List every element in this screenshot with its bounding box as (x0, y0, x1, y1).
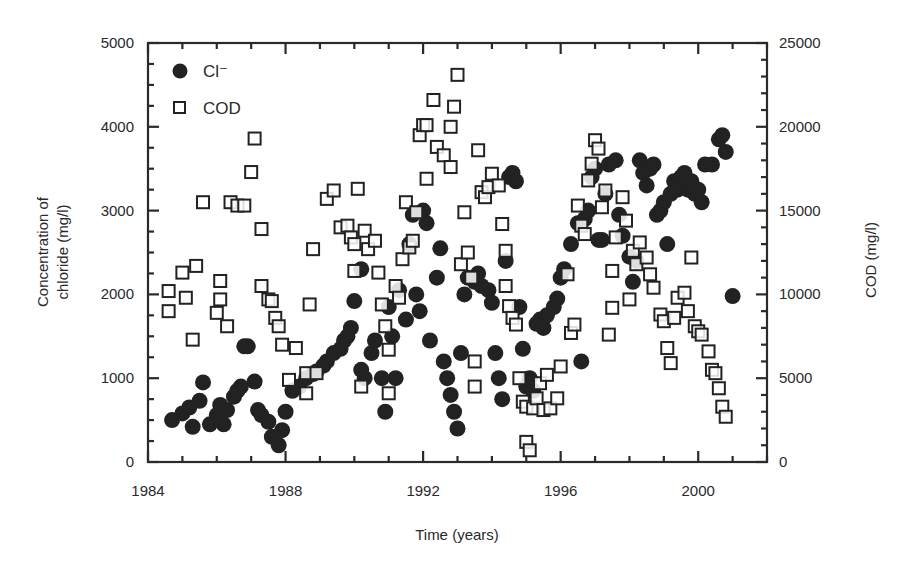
cod-data-point (255, 280, 267, 292)
cl-data-point (639, 177, 655, 193)
cod-data-point (283, 374, 295, 386)
cod-data-point (163, 305, 175, 317)
cl-data-point (456, 286, 472, 302)
cod-data-point (469, 381, 481, 393)
cl-data-point (436, 353, 452, 369)
cod-data-point (355, 381, 367, 393)
y-tick-label: 2000 (101, 285, 134, 302)
cl-data-point (429, 270, 445, 286)
cl-data-point (432, 240, 448, 256)
cod-data-point (644, 268, 656, 280)
y2-tick-label: 25000 (779, 34, 821, 51)
cl-data-point (491, 370, 507, 386)
cod-data-point (617, 191, 629, 203)
cod-data-point (469, 355, 481, 367)
cl-data-point (718, 144, 734, 160)
cod-data-point (620, 215, 632, 227)
cod-data-point (307, 243, 319, 255)
cod-data-point (709, 367, 721, 379)
cl-data-point (487, 345, 503, 361)
cl-data-point (195, 374, 211, 390)
cod-data-point (541, 369, 553, 381)
x-tick-label: 1996 (544, 482, 577, 499)
cod-data-point (276, 339, 288, 351)
cod-data-point (531, 392, 543, 404)
x-tick-label: 1992 (406, 482, 439, 499)
cod-data-point (455, 258, 467, 270)
cod-data-point (407, 235, 419, 247)
cod-data-point (448, 101, 460, 113)
cod-data-point (445, 121, 457, 133)
cod-data-point (703, 345, 715, 357)
cod-data-point (513, 372, 525, 384)
cod-data-point (238, 200, 250, 212)
cl-data-point (494, 391, 510, 407)
cod-data-point (245, 166, 257, 178)
cl-data-point (185, 419, 201, 435)
cod-data-point (713, 382, 725, 394)
cod-data-point (623, 293, 635, 305)
legend-cl-label: Cl⁻ (203, 62, 228, 81)
cod-data-point (472, 144, 484, 156)
y-axis-title-line-1: Concentration of (34, 196, 51, 307)
cod-data-point (524, 444, 536, 456)
cl-data-point (408, 286, 424, 302)
cl-data-point (484, 295, 500, 311)
cl-data-point (388, 370, 404, 386)
cod-data-point (462, 247, 474, 259)
cod-data-point (197, 196, 209, 208)
cod-data-point (266, 295, 278, 307)
cl-data-point (563, 236, 579, 252)
cl-data-point (549, 291, 565, 307)
cod-data-point (503, 300, 515, 312)
cod-data-point (438, 149, 450, 161)
cod-data-point (648, 282, 660, 294)
y-axis-title: Concentration of chloride (mg/l) (34, 196, 71, 307)
cod-data-point (579, 228, 591, 240)
cod-data-point (421, 173, 433, 185)
cod-data-point (696, 329, 708, 341)
cod-data-point (606, 302, 618, 314)
cl-data-point (573, 353, 589, 369)
cod-data-point (500, 280, 512, 292)
cod-data-point (396, 253, 408, 265)
cod-data-point (568, 319, 580, 331)
x-axis-title: Time (years) (415, 526, 499, 543)
y2-tick-label: 5000 (779, 369, 812, 386)
cod-data-point (665, 357, 677, 369)
legend: Cl⁻ COD (173, 62, 241, 118)
cod-data-point (348, 265, 360, 277)
cl-data-point (714, 127, 730, 143)
cl-data-point (346, 293, 362, 309)
cl-data-point (694, 194, 710, 210)
cod-data-point (383, 387, 395, 399)
cl-data-point (443, 387, 459, 403)
cod-data-point (190, 260, 202, 272)
y-tick-label: 0 (126, 453, 134, 470)
cl-data-point (240, 338, 256, 354)
cod-data-point (599, 184, 611, 196)
y2-tick-label: 10000 (779, 285, 821, 302)
cod-data-point (586, 158, 598, 170)
cod-data-point (603, 329, 615, 341)
cod-data-point (465, 272, 477, 284)
cod-data-point (372, 267, 384, 279)
cl-data-point (216, 416, 232, 432)
cl-data-point (725, 288, 741, 304)
cod-data-point (352, 183, 364, 195)
cod-data-point (668, 312, 680, 324)
cod-data-point (214, 275, 226, 287)
cod-data-point (369, 235, 381, 247)
y2-axis-title: COD (mg/l) (862, 222, 879, 298)
cod-data-point (685, 252, 697, 264)
cod-data-point (221, 320, 233, 332)
cod-data-point (634, 236, 646, 248)
cod-data-point (290, 342, 302, 354)
cod-data-point (500, 245, 512, 257)
cod-data-point (606, 265, 618, 277)
cod-data-point (551, 392, 563, 404)
x-tick-label: 1988 (269, 482, 302, 499)
cod-data-point (379, 320, 391, 332)
y2-tick-label: 0 (779, 453, 787, 470)
cod-data-point (163, 285, 175, 297)
